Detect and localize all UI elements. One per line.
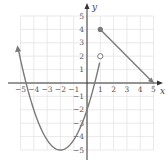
y-tick-label: −1 [73, 92, 84, 101]
x-tick-label: −3 [42, 85, 53, 94]
closed-circle-endpoint [98, 27, 103, 32]
y-tick-label: −2 [73, 105, 84, 114]
piecewise-function-graph: −5−4−3−2−11234554321−1−2−3−4−5 x y [0, 0, 167, 162]
y-tick-label: 4 [79, 25, 84, 34]
x-tick-label: −4 [28, 85, 39, 94]
x-tick-label: 5 [151, 85, 156, 94]
y-tick-label: −5 [73, 146, 84, 155]
x-tick-label: 4 [138, 85, 143, 94]
x-axis-arrow-icon [157, 81, 163, 86]
x-tick-label: 1 [98, 85, 103, 94]
y-axis-label: y [91, 2, 98, 12]
y-tick-label: 3 [79, 38, 84, 47]
x-tick-label: −5 [15, 85, 26, 94]
y-tick-label: 1 [79, 65, 84, 74]
x-tick-label: 2 [111, 85, 116, 94]
y-axis-arrow-icon [85, 3, 90, 9]
line-segment [100, 29, 151, 81]
y-tick-label: 2 [79, 52, 84, 61]
open-circle-endpoint [98, 54, 103, 59]
y-tick-label: 5 [79, 12, 84, 21]
x-axis-label: x [160, 86, 165, 96]
x-tick-label: −2 [55, 85, 66, 94]
x-tick-label: 3 [125, 85, 130, 94]
